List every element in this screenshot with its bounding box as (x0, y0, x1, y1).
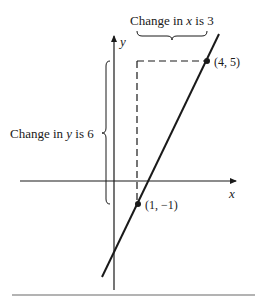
graph-line (102, 34, 219, 277)
point-1-neg1-label: (1, −1) (145, 198, 178, 212)
slope-diagram: x y (4, 5) (1, −1) Change in x is 3 Chan… (0, 0, 255, 301)
change-x-label: Change in x is 3 (130, 13, 214, 28)
x-axis-label: x (228, 186, 235, 201)
point-4-5-marker (204, 58, 210, 64)
y-axis-label: y (118, 34, 126, 49)
change-y-brace (102, 61, 110, 204)
change-x-brace (137, 31, 207, 40)
point-4-5-label: (4, 5) (214, 55, 240, 69)
change-y-label: Change in y is 6 (10, 126, 94, 141)
point-1-neg1-marker (135, 201, 141, 207)
